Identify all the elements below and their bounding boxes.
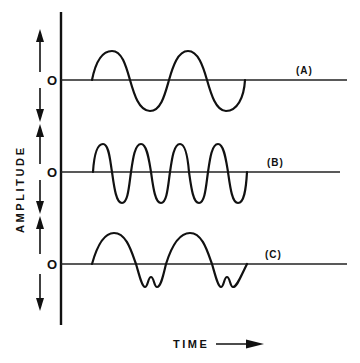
amplitude-arrows [36,29,44,311]
arrow-down-icon [36,298,44,311]
zero-marker-b: O [47,165,57,180]
y-axis-label: AMPLITUDE [14,145,26,233]
zero-markers: O O O [47,73,57,272]
arrow-up-icon [36,124,44,137]
arrow-down-icon [36,201,44,214]
waveform-diagram: O O O AMPLITUDE (A) (B) (C) TIME [0,0,360,363]
arrow-down-icon [36,109,44,122]
waveform-c [92,233,247,287]
trace-label-a: (A) [296,65,313,76]
time-arrow-icon [246,340,264,349]
zero-marker-a: O [47,73,57,88]
waveform-b [93,144,247,203]
trace-label-b: (B) [267,157,284,168]
waveform-a [92,51,245,111]
x-axis-label: TIME [173,338,209,350]
arrow-up-icon [36,29,44,42]
trace-label-c: (C) [265,249,282,260]
zero-marker-c: O [47,257,57,272]
arrow-up-icon [36,216,44,229]
